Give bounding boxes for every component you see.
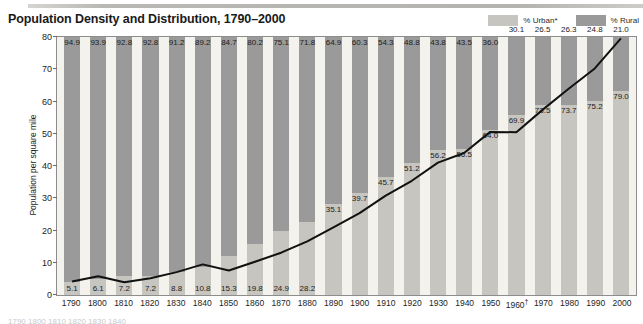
y-tick-label: 0 <box>47 290 52 300</box>
rural-value-label: 92.8 <box>143 39 159 47</box>
bar-column: 60.339.7 <box>347 37 373 295</box>
bar-segment-rural: 71.8 <box>299 37 315 222</box>
bar-segment-urban: 56.5 <box>456 149 472 295</box>
bar-segment-rural: 94.9 <box>64 37 80 282</box>
stacked-bar: 26.573.5 <box>535 37 551 295</box>
x-axis-label: 1790 <box>58 298 84 310</box>
stacked-bar: 60.339.7 <box>352 37 368 295</box>
y-tick-label: 20 <box>42 226 52 236</box>
stacked-bar: 89.210.8 <box>195 37 211 295</box>
x-axis-label: 1910 <box>373 298 399 310</box>
rural-value-label: 36.0 <box>483 39 499 47</box>
bar-segment-urban: 73.7 <box>561 105 577 295</box>
bar-segment-rural: 92.8 <box>142 37 158 276</box>
bar-segment-urban: 19.8 <box>247 244 263 295</box>
bar-segment-urban: 15.3 <box>221 256 237 295</box>
rural-value-label: 71.8 <box>300 39 316 47</box>
x-axis-label: 1920 <box>399 298 425 310</box>
bar-column: 91.28.8 <box>164 37 190 295</box>
x-axis-label: 1890 <box>320 298 346 310</box>
bar-column: 92.87.2 <box>137 37 163 295</box>
bar-segment-rural: 26.3 <box>561 37 577 105</box>
bar-segment-urban: 69.9 <box>508 115 524 295</box>
bar-column: 80.219.8 <box>242 37 268 295</box>
urban-value-label: 35.1 <box>326 206 342 214</box>
rural-value-label: 75.1 <box>273 39 289 47</box>
bar-segment-urban: 79.0 <box>613 91 629 295</box>
bar-segment-rural: 54.3 <box>378 37 394 177</box>
rural-value-label: 43.5 <box>456 39 472 47</box>
y-tick-label: 40 <box>42 161 52 171</box>
rural-value-label: 94.9 <box>64 39 80 47</box>
urban-value-label: 8.8 <box>171 285 182 293</box>
stacked-bar: 43.556.5 <box>456 37 472 295</box>
bar-segment-urban: 51.2 <box>404 163 420 295</box>
urban-value-label: 51.2 <box>404 165 420 173</box>
stacked-bar: 92.87.2 <box>142 37 158 295</box>
bar-segment-rural: 43.8 <box>430 37 446 150</box>
bar-segment-urban: 73.5 <box>535 105 551 295</box>
stacked-bar: 64.935.1 <box>325 37 341 295</box>
bar-column: 21.079.0 <box>608 37 634 295</box>
bar-segment-rural: 43.5 <box>456 37 472 149</box>
stacked-bar: 80.219.8 <box>247 37 263 295</box>
rural-value-label: 26.5 <box>535 26 551 34</box>
x-axis-label: 1980 <box>556 298 582 310</box>
urban-value-label: 39.7 <box>352 195 368 203</box>
bar-column: 84.715.3 <box>216 37 242 295</box>
y-axis-title: Population per square mile <box>28 85 38 245</box>
urban-value-label: 19.8 <box>247 285 263 293</box>
bar-column: 43.856.2 <box>425 37 451 295</box>
x-axis-label: 1870 <box>268 298 294 310</box>
bar-segment-urban: 75.2 <box>587 101 603 295</box>
bars-container: 94.95.193.96.192.87.292.87.291.28.889.21… <box>57 37 636 295</box>
y-tick-label: 70 <box>42 64 52 74</box>
urban-value-label: 79.0 <box>613 93 629 101</box>
y-tick-label: 60 <box>42 97 52 107</box>
x-axis-label: 1970 <box>530 298 556 310</box>
x-axis-label: 1850 <box>215 298 241 310</box>
x-axis-label: 1820 <box>137 298 163 310</box>
y-tick-label: 10 <box>42 258 52 268</box>
urban-value-label: 10.8 <box>195 285 211 293</box>
stacked-bar: 30.169.9 <box>508 37 524 295</box>
stacked-bar: 54.345.7 <box>378 37 394 295</box>
urban-value-label: 75.2 <box>587 103 603 111</box>
bar-segment-urban: 56.2 <box>430 150 446 295</box>
legend-label-urban: % Urban* <box>523 16 557 25</box>
x-axis-label: 1940 <box>452 298 478 310</box>
rural-value-label: 89.2 <box>195 39 211 47</box>
stacked-bar: 94.95.1 <box>64 37 80 295</box>
stacked-bar: 26.373.7 <box>561 37 577 295</box>
x-axis-label: 1960† <box>504 298 530 310</box>
stacked-bar: 91.28.8 <box>169 37 185 295</box>
urban-value-label: 56.2 <box>430 152 446 160</box>
y-tick-label: 80 <box>42 32 52 42</box>
bar-segment-rural: 64.9 <box>325 37 341 204</box>
bar-segment-urban: 28.2 <box>299 222 315 295</box>
urban-value-label: 28.2 <box>300 285 316 293</box>
urban-value-label: 45.7 <box>378 179 394 187</box>
x-axis-label: 1990 <box>583 298 609 310</box>
bar-segment-rural: 92.8 <box>116 37 132 276</box>
bar-segment-rural: 36.0 <box>482 37 498 130</box>
x-axis-label: 1900 <box>347 298 373 310</box>
bar-column: 43.556.5 <box>451 37 477 295</box>
bar-column: 94.95.1 <box>59 37 85 295</box>
urban-value-label: 5.1 <box>67 285 78 293</box>
bar-segment-rural: 93.9 <box>90 37 106 279</box>
bar-column: 24.875.2 <box>582 37 608 295</box>
x-axis-label: 1830 <box>163 298 189 310</box>
bar-segment-urban: 35.1 <box>325 204 341 295</box>
bar-segment-urban: 10.8 <box>195 267 211 295</box>
x-axis-label: 1930 <box>425 298 451 310</box>
bar-column: 89.210.8 <box>190 37 216 295</box>
stacked-bar: 92.87.2 <box>116 37 132 295</box>
urban-value-label: 7.2 <box>119 285 130 293</box>
stacked-bar: 48.851.2 <box>404 37 420 295</box>
rural-value-label: 24.8 <box>587 26 603 34</box>
bar-column: 30.169.9 <box>503 37 529 295</box>
urban-value-label: 7.2 <box>145 285 156 293</box>
rural-value-label: 92.8 <box>117 39 133 47</box>
bar-column: 48.851.2 <box>399 37 425 295</box>
